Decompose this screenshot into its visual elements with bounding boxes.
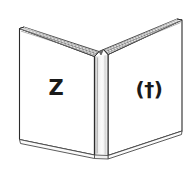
spine-foot [95, 155, 109, 159]
right-page-symbol: (†) [122, 79, 176, 99]
left-page-symbol: Z [34, 78, 78, 99]
book-spine [95, 55, 109, 156]
open-book-illustration: Z (†) [0, 0, 195, 180]
